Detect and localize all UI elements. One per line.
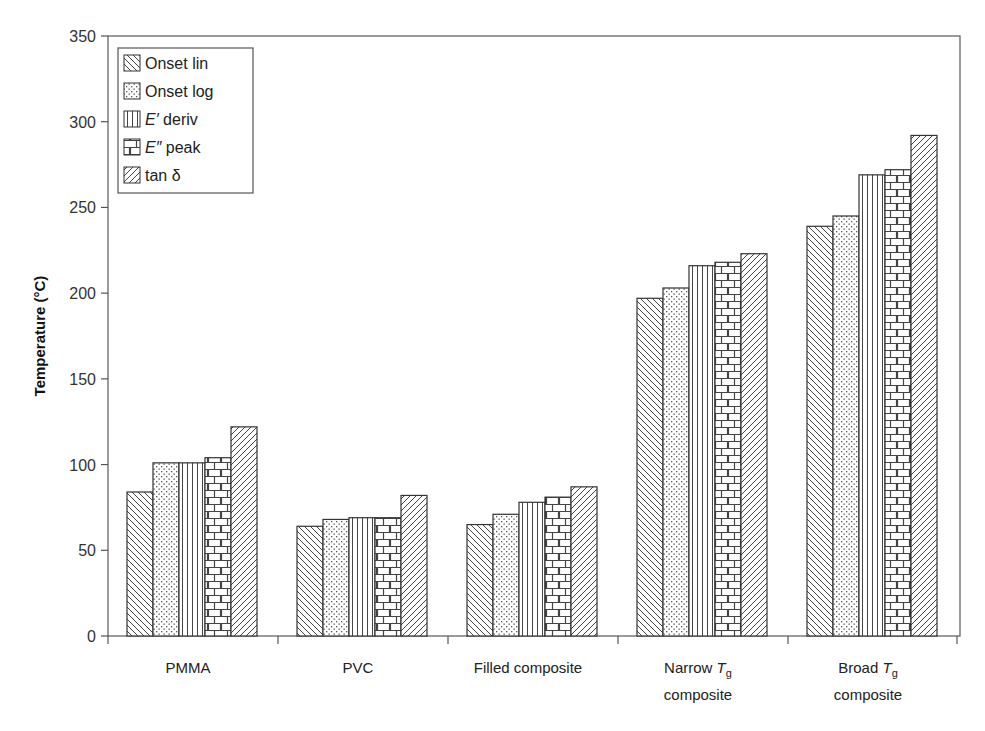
bar-group bbox=[467, 487, 597, 636]
x-category-label: PMMA bbox=[166, 659, 211, 676]
x-category-label-line2: composite bbox=[664, 686, 732, 703]
x-category-label-line2: composite bbox=[834, 686, 902, 703]
y-tick-label: 300 bbox=[69, 114, 96, 131]
bar bbox=[401, 495, 427, 636]
bar bbox=[297, 526, 323, 636]
bar bbox=[859, 175, 885, 636]
legend-item: Onset lin bbox=[124, 55, 208, 72]
bar bbox=[833, 216, 859, 636]
x-category-label: Broad Tg bbox=[838, 659, 898, 679]
legend-item: tan δ bbox=[124, 167, 181, 184]
y-axis-label: Temperature (°C) bbox=[31, 276, 48, 397]
y-tick-label: 50 bbox=[78, 542, 96, 559]
bar bbox=[715, 262, 741, 636]
bar bbox=[519, 502, 545, 636]
legend-label: Onset log bbox=[145, 83, 213, 100]
legend-label: E′ deriv bbox=[145, 111, 198, 128]
bar-chart: 050100150200250300350 PMMAPVCFilled comp… bbox=[0, 0, 985, 731]
bar bbox=[663, 288, 689, 636]
y-axis: 050100150200250300350 bbox=[69, 28, 108, 645]
y-tick-label: 0 bbox=[87, 628, 96, 645]
legend-swatch-icon bbox=[124, 55, 140, 71]
bar bbox=[179, 463, 205, 636]
bar bbox=[571, 487, 597, 636]
bar bbox=[375, 518, 401, 636]
legend-label: Onset lin bbox=[145, 55, 208, 72]
x-category-label: Narrow Tg bbox=[664, 659, 732, 679]
bar bbox=[127, 492, 153, 636]
x-category-label: Filled composite bbox=[474, 659, 582, 676]
bar bbox=[153, 463, 179, 636]
bar bbox=[911, 135, 937, 636]
bar bbox=[741, 254, 767, 636]
legend-item: E′ deriv bbox=[124, 111, 198, 128]
bar bbox=[205, 458, 231, 636]
bar bbox=[493, 514, 519, 636]
y-tick-label: 350 bbox=[69, 28, 96, 45]
x-axis bbox=[108, 636, 957, 644]
bar bbox=[467, 525, 493, 636]
x-category-labels: PMMAPVCFilled compositeNarrow Tgcomposit… bbox=[166, 659, 903, 703]
bar bbox=[231, 427, 257, 636]
y-tick-label: 250 bbox=[69, 199, 96, 216]
bar bbox=[323, 519, 349, 636]
legend-label: tan δ bbox=[145, 167, 181, 184]
legend-item: Onset log bbox=[124, 83, 213, 100]
y-tick-label: 200 bbox=[69, 285, 96, 302]
bar bbox=[689, 266, 715, 636]
legend: Onset linOnset logE′ derivE″ peaktan δ bbox=[118, 48, 253, 193]
legend-swatch-icon bbox=[124, 167, 140, 183]
legend-swatch-icon bbox=[124, 111, 140, 127]
y-tick-label: 150 bbox=[69, 371, 96, 388]
bar bbox=[807, 226, 833, 636]
bar-group bbox=[637, 254, 767, 636]
legend-label: E″ peak bbox=[145, 139, 201, 156]
bar bbox=[545, 497, 571, 636]
bar-group bbox=[807, 135, 937, 636]
bar-group bbox=[297, 495, 427, 636]
legend-swatch-icon bbox=[124, 139, 140, 155]
bar bbox=[349, 518, 375, 636]
legend-item: E″ peak bbox=[124, 139, 201, 156]
bars bbox=[127, 135, 937, 636]
y-tick-label: 100 bbox=[69, 457, 96, 474]
x-category-label: PVC bbox=[343, 659, 374, 676]
bar bbox=[885, 170, 911, 636]
bar-group bbox=[127, 427, 257, 636]
bar bbox=[637, 298, 663, 636]
legend-swatch-icon bbox=[124, 83, 140, 99]
